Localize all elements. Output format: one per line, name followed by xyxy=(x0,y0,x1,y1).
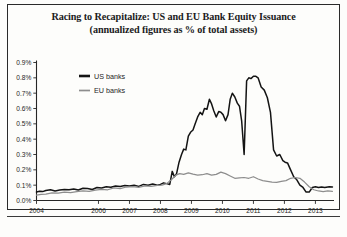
x-axis-tick-label: 2012 xyxy=(277,207,292,214)
y-axis-tick-label: 0.3% xyxy=(16,151,31,158)
x-axis-tick-label: 2013 xyxy=(308,207,323,214)
series-eu-banks xyxy=(37,172,333,195)
figure-page: Racing to Recapitalize: US and EU Bank E… xyxy=(0,0,347,237)
y-axis-ticks: 0.0%0.1%0.2%0.3%0.4%0.5%0.6%0.7%0.8%0.9% xyxy=(16,59,36,204)
y-axis-tick-label: 0.4% xyxy=(16,136,31,143)
y-axis-tick-label: 0.2% xyxy=(16,166,31,173)
x-axis-tick-label: 2004 xyxy=(29,207,44,214)
x-axis-tick-label: 2007 xyxy=(122,207,137,214)
x-axis-tick-label: 2010 xyxy=(215,207,230,214)
legend-label-eu-banks: EU banks xyxy=(94,86,126,95)
line-chart: 0.0%0.1%0.2%0.3%0.4%0.5%0.6%0.7%0.8%0.9%… xyxy=(0,0,347,237)
y-axis-tick-label: 0.9% xyxy=(16,59,31,66)
y-axis-tick-label: 0.6% xyxy=(16,105,31,112)
y-axis-tick-label: 0.0% xyxy=(16,197,31,204)
legend-label-us-banks: US banks xyxy=(94,72,126,81)
y-axis-tick-label: 0.1% xyxy=(16,182,31,189)
y-axis-tick-label: 0.5% xyxy=(16,120,31,127)
plot-area: 0.0%0.1%0.2%0.3%0.4%0.5%0.6%0.7%0.8%0.9%… xyxy=(0,0,347,237)
y-axis-tick-label: 0.7% xyxy=(16,90,31,97)
series-lines xyxy=(37,76,333,195)
y-axis-tick-label: 0.8% xyxy=(16,74,31,81)
x-axis-ticks: 200420062007200820092010201120122013 xyxy=(29,201,323,214)
x-axis-tick-label: 2006 xyxy=(91,207,106,214)
chart-legend: US banksEU banks xyxy=(79,72,126,96)
x-axis-tick-label: 2009 xyxy=(184,207,199,214)
x-axis-tick-label: 2008 xyxy=(153,207,168,214)
x-axis-tick-label: 2011 xyxy=(246,207,261,214)
